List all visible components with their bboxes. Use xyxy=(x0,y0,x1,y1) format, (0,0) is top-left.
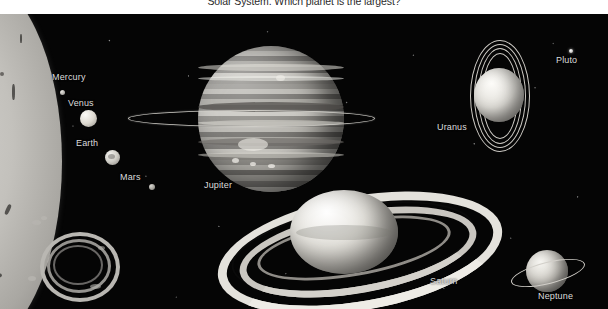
label-pluto: Pluto xyxy=(556,55,577,65)
label-earth: Earth xyxy=(76,138,98,148)
planet-pluto xyxy=(569,49,573,53)
label-venus: Venus xyxy=(68,98,94,108)
label-uranus: Uranus xyxy=(437,122,467,132)
solar-system-figure: Solar System. Which planet is the larges… xyxy=(0,0,608,309)
figure-caption: Solar System. Which planet is the larges… xyxy=(0,0,608,7)
label-mars: Mars xyxy=(120,172,141,182)
uranus-body xyxy=(474,68,524,122)
label-saturn: Saturn xyxy=(430,276,457,286)
jupiter-ring xyxy=(128,110,375,127)
planet-mars xyxy=(149,184,155,190)
planet-earth xyxy=(105,150,120,165)
planet-venus xyxy=(80,110,97,127)
planet-mercury xyxy=(60,90,65,95)
solar-prominence-icon xyxy=(38,228,116,300)
label-neptune: Neptune xyxy=(538,291,573,301)
illustration-plate: Mercury Venus Earth Mars xyxy=(0,14,608,309)
planet-uranus xyxy=(462,40,536,152)
label-mercury: Mercury xyxy=(52,72,86,82)
